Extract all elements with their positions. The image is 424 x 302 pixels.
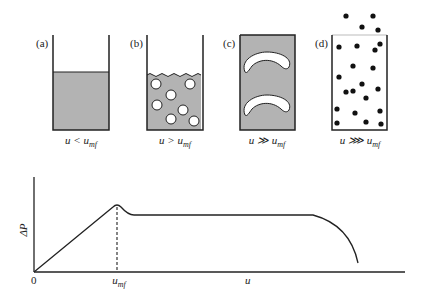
diagram-canvas — [0, 0, 424, 302]
pressure-drop-curve — [34, 205, 358, 272]
beaker-b — [147, 35, 203, 130]
origin-label: 0 — [31, 274, 37, 286]
caption-c: u ≫ umf — [249, 134, 286, 149]
panel-label-d: (d) — [315, 37, 328, 49]
beaker-c — [240, 35, 295, 130]
x-axis-label: u — [245, 274, 251, 286]
panel-label-c: (c) — [223, 37, 235, 49]
particles — [334, 13, 383, 126]
y-axis-label: ΔP — [17, 223, 29, 236]
caption-b: u > umf — [159, 134, 191, 149]
caption-d: u ⋙ umf — [340, 134, 381, 149]
panel-label-b: (b) — [130, 37, 143, 49]
beaker-d — [332, 13, 387, 130]
caption-a: u < umf — [65, 134, 97, 149]
umf-tick-label: umf — [112, 274, 126, 289]
slugging-bed-fill — [240, 35, 295, 130]
panel-label-a: (a) — [36, 37, 48, 49]
fixed-bed-fill — [53, 72, 109, 130]
beaker-a — [53, 35, 109, 130]
pressure-drop-graph — [34, 177, 405, 272]
